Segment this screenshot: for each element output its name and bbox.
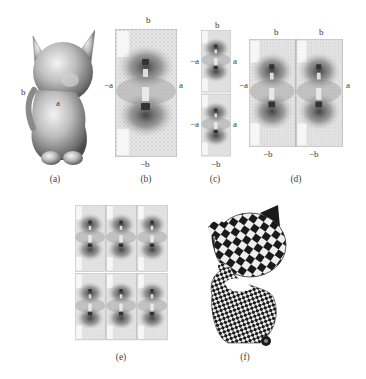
edge-label-right-a: a: [233, 120, 237, 129]
horizontal-tiling-image: [249, 39, 343, 147]
seam-label-a: a: [56, 99, 60, 108]
edge-label-bottom-minus-b: −b: [263, 150, 273, 159]
panel-b-parameter-domain: [115, 29, 177, 157]
vertical-tiling-image: [201, 30, 231, 158]
panel-d-horizontal-tiling: [249, 39, 343, 147]
kitten-shaded-model: [15, 28, 95, 168]
panel-a-kitten: b a: [15, 28, 95, 168]
edge-label-left-minus-a: −a: [239, 81, 248, 90]
edge-label-top-b: b: [146, 16, 151, 25]
edge-label-right-a: a: [179, 81, 183, 90]
caption-e: (e): [106, 352, 136, 362]
edge-label-bottom-minus-b: −b: [140, 160, 150, 169]
caption-d: (d): [281, 174, 311, 184]
parameter-domain-image: [115, 29, 177, 157]
edge-label-right-a: a: [233, 57, 237, 66]
caption-b: (b): [131, 174, 161, 184]
grid-tiling-image: [75, 205, 168, 342]
edge-label-bottom-minus-b: −b: [309, 150, 319, 159]
panel-f-textured-kitten: [200, 203, 290, 348]
seam-label-b: b: [21, 88, 26, 97]
caption-f: (f): [230, 352, 260, 362]
edge-label-top-b: b: [215, 21, 220, 30]
edge-label-top-b: b: [274, 28, 279, 37]
edge-label-right-a: a: [346, 81, 350, 90]
panel-e-grid-tiling: [75, 205, 168, 342]
edge-label-top-b: b: [319, 28, 324, 37]
edge-label-left-minus-a: −a: [104, 81, 113, 90]
edge-label-left-minus-a: −a: [190, 57, 199, 66]
edge-label-bottom-minus-b: −b: [211, 160, 221, 169]
caption-c: (c): [200, 174, 230, 184]
edge-label-left-minus-a: −a: [190, 120, 199, 129]
caption-a: (a): [40, 174, 70, 184]
panel-c-vertical-tiling: [201, 30, 231, 158]
checkerboard-kitten-model: [200, 203, 290, 348]
